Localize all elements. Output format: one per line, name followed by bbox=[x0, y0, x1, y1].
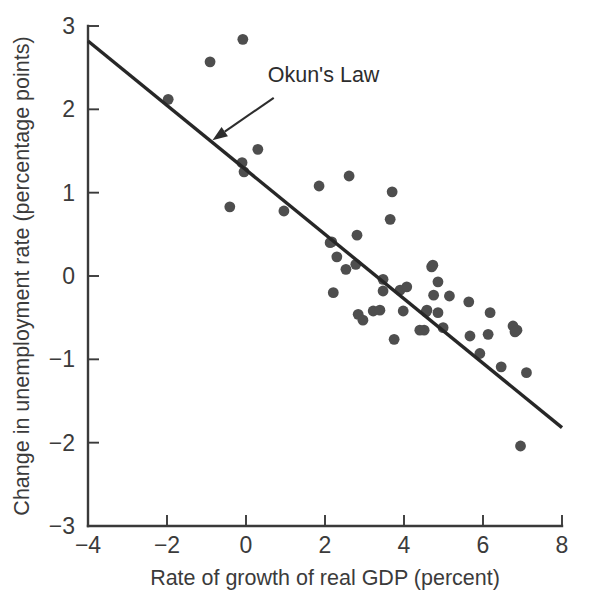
data-point bbox=[401, 281, 412, 292]
x-axis-tick-labels: −4−202468 bbox=[75, 532, 569, 558]
annotation-arrow-line bbox=[225, 98, 274, 132]
data-point bbox=[237, 34, 248, 45]
data-point bbox=[341, 264, 352, 275]
axes-group: −4−202468 −3−2−10123 bbox=[49, 13, 569, 558]
okuns-law-scatter-figure: −4−202468 −3−2−10123 Okun's Law Rate of … bbox=[0, 0, 612, 603]
okuns-law-annotation-label: Okun's Law bbox=[268, 63, 380, 87]
data-point bbox=[463, 296, 474, 307]
y-tick-label: 2 bbox=[62, 96, 75, 122]
data-point bbox=[205, 56, 216, 67]
data-point bbox=[515, 441, 526, 452]
data-point bbox=[252, 144, 263, 155]
y-tick-label: 1 bbox=[62, 180, 75, 206]
data-point bbox=[433, 307, 444, 318]
data-point bbox=[428, 290, 439, 301]
okuns-law-annotation: Okun's Law bbox=[212, 63, 379, 140]
data-point bbox=[465, 331, 476, 342]
data-point bbox=[328, 287, 339, 298]
data-point bbox=[352, 230, 363, 241]
data-point bbox=[279, 206, 290, 217]
x-tick-label: −2 bbox=[154, 532, 180, 558]
x-tick-label: 4 bbox=[398, 532, 411, 558]
data-point bbox=[444, 291, 455, 302]
scatter-points-layer bbox=[163, 34, 532, 451]
data-point bbox=[375, 305, 386, 316]
y-tick-label: 3 bbox=[62, 13, 75, 39]
y-tick-label: −1 bbox=[49, 346, 75, 372]
x-axis-ticks bbox=[88, 515, 562, 526]
data-point bbox=[224, 201, 235, 212]
data-point bbox=[427, 260, 438, 271]
data-point bbox=[414, 325, 425, 336]
data-point bbox=[331, 251, 342, 262]
x-tick-label: 0 bbox=[240, 532, 253, 558]
y-tick-label: 0 bbox=[62, 263, 75, 289]
data-point bbox=[510, 326, 521, 337]
x-tick-label: 6 bbox=[477, 532, 490, 558]
y-tick-label: −2 bbox=[49, 430, 75, 456]
data-point bbox=[344, 171, 355, 182]
data-point bbox=[398, 306, 409, 317]
data-point bbox=[314, 181, 325, 192]
x-tick-label: −4 bbox=[75, 532, 101, 558]
data-point bbox=[389, 334, 400, 345]
y-axis-ticks bbox=[88, 26, 99, 526]
annotation-arrow-head-icon bbox=[212, 127, 228, 140]
data-point bbox=[485, 307, 496, 318]
data-point bbox=[387, 186, 398, 197]
y-tick-label: −3 bbox=[49, 513, 75, 539]
data-point bbox=[378, 286, 389, 297]
y-axis-title: Change in unemployment rate (percentage … bbox=[10, 36, 34, 515]
x-tick-label: 8 bbox=[556, 532, 569, 558]
data-point bbox=[385, 214, 396, 225]
y-axis-tick-labels: −3−2−10123 bbox=[49, 13, 75, 539]
data-point bbox=[433, 276, 444, 287]
x-axis-title: Rate of growth of real GDP (percent) bbox=[150, 566, 500, 590]
data-point bbox=[521, 367, 532, 378]
x-tick-label: 2 bbox=[319, 532, 332, 558]
data-point bbox=[483, 329, 494, 340]
data-point bbox=[358, 315, 369, 326]
okuns-law-trend-line bbox=[88, 41, 562, 428]
chart-canvas: −4−202468 −3−2−10123 Okun's Law Rate of … bbox=[0, 0, 612, 603]
data-point bbox=[496, 361, 507, 372]
